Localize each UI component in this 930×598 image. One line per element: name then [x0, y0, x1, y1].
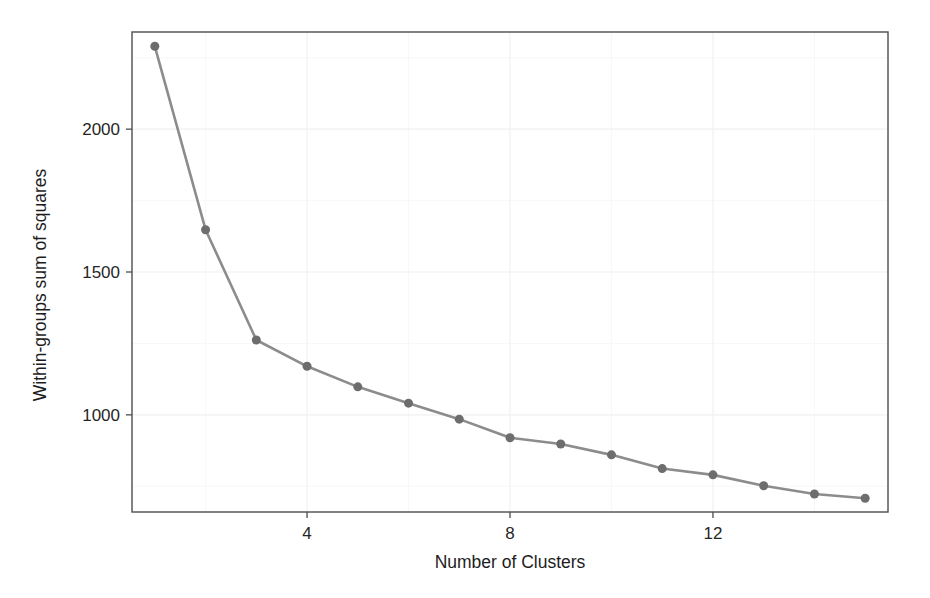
y-tick-label: 1000: [82, 406, 120, 425]
data-point: [861, 494, 870, 503]
x-axis-title: Number of Clusters: [435, 552, 586, 572]
data-point: [759, 481, 768, 490]
data-point: [658, 464, 667, 473]
data-point: [353, 382, 362, 391]
data-point: [150, 42, 159, 51]
elbow-plot-figure: 4812 100015002000 Number of Clusters Wit…: [0, 0, 930, 598]
data-point: [252, 336, 261, 345]
x-tick-label: 8: [505, 524, 514, 543]
data-point: [303, 362, 312, 371]
data-point: [506, 433, 515, 442]
data-point: [455, 415, 464, 424]
data-point: [404, 399, 413, 408]
x-tick-label: 12: [703, 524, 722, 543]
chart-canvas: 4812 100015002000 Number of Clusters Wit…: [0, 0, 930, 598]
y-tick-label: 1500: [82, 263, 120, 282]
data-point: [556, 440, 565, 449]
data-point: [607, 450, 616, 459]
y-axis-title: Within-groups sum of squares: [30, 169, 50, 402]
y-tick-label: 2000: [82, 120, 120, 139]
data-point: [810, 490, 819, 499]
data-point: [708, 470, 717, 479]
x-tick-label: 4: [302, 524, 311, 543]
data-point: [201, 225, 210, 234]
